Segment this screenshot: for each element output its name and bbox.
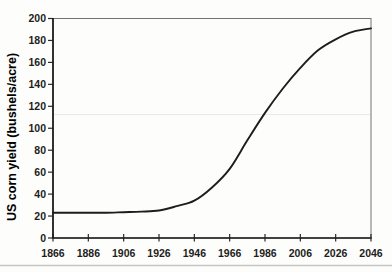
corn-yield-figure: 1866188619061926194619661986200620262046… [0,0,392,272]
y-tick-label: 60 [34,166,46,178]
x-tick-label: 2026 [324,247,348,259]
y-tick-label: 100 [28,122,46,134]
x-tick-label: 1866 [41,247,65,259]
y-tick-label: 200 [28,12,46,24]
x-tick-label: 1986 [253,247,277,259]
plot-area: 1866188619061926194619661986200620262046… [28,12,382,258]
y-tick-label: 0 [40,232,46,244]
y-tick-label: 160 [28,56,46,68]
y-tick-label: 80 [34,144,46,156]
x-tick-label: 1966 [218,247,242,259]
y-tick-label: 40 [34,188,46,200]
x-tick-label: 1926 [147,247,171,259]
corn-yield-chart: 1866188619061926194619661986200620262046… [0,0,392,272]
x-tick-label: 1886 [77,247,101,259]
yield-curve [53,28,371,212]
x-tick-label: 2006 [289,247,313,259]
plot-border [53,19,371,239]
x-tick-label: 1946 [183,247,207,259]
y-tick-label: 120 [28,100,46,112]
y-axis-title: US corn yield (bushels/acre) [5,53,19,221]
x-tick-label: 1906 [112,247,136,259]
y-tick-label: 140 [28,78,46,90]
y-tick-label: 180 [28,34,46,46]
x-tick-label: 2046 [359,247,383,259]
y-tick-label: 20 [34,210,46,222]
